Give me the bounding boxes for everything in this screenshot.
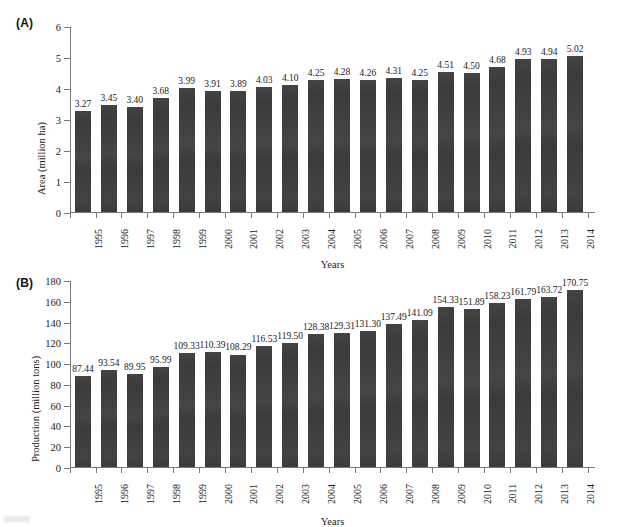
bar <box>256 346 272 467</box>
y-tick-mark <box>64 182 70 183</box>
x-tick-label: 2002 <box>274 484 285 504</box>
y-tick-label: 140 <box>45 317 61 328</box>
x-tick-label: 2012 <box>533 229 544 249</box>
bar <box>386 324 402 467</box>
x-tick-label: 1998 <box>171 229 182 249</box>
y-tick-mark <box>64 343 70 344</box>
x-tick-label: 1997 <box>145 229 156 249</box>
bar-value-label: 119.50 <box>273 331 307 341</box>
bar <box>75 376 91 467</box>
x-tick-label: 2012 <box>533 484 544 504</box>
y-tick-label: 60 <box>51 400 62 411</box>
bar <box>101 370 117 467</box>
x-tick-mark <box>484 468 485 473</box>
x-tick-label: 2014 <box>585 484 596 504</box>
panel-a-plot-area: 01234563.273.453.403.683.993.913.894.034… <box>70 27 595 213</box>
x-tick-label: 2005 <box>352 229 363 249</box>
x-tick-mark <box>303 468 304 473</box>
x-tick-mark <box>432 213 433 218</box>
y-tick-mark <box>64 406 70 407</box>
x-tick-mark <box>147 213 148 218</box>
bar-value-label: 95.99 <box>144 355 178 365</box>
bar <box>438 72 454 212</box>
bar <box>256 87 272 212</box>
y-tick-mark <box>64 89 70 90</box>
x-tick-mark <box>70 468 71 473</box>
bar-value-label: 5.02 <box>558 44 592 54</box>
x-tick-label: 2001 <box>248 484 259 504</box>
y-tick-label: 6 <box>56 22 61 33</box>
x-tick-label: 2013 <box>559 229 570 249</box>
x-tick-mark <box>355 468 356 473</box>
bar <box>101 105 117 212</box>
x-tick-mark <box>536 213 537 218</box>
x-tick-mark <box>355 213 356 218</box>
x-tick-label: 1997 <box>145 484 156 504</box>
scan-artifact <box>4 516 30 522</box>
x-tick-mark <box>277 213 278 218</box>
x-tick-label: 2008 <box>430 229 441 249</box>
bar <box>334 79 350 212</box>
bar <box>464 73 480 213</box>
bar <box>541 297 557 467</box>
panel-b-y-axis-line <box>70 281 71 468</box>
y-tick-label: 2 <box>56 146 61 157</box>
bar <box>515 59 531 212</box>
x-tick-label: 2000 <box>223 229 234 249</box>
x-tick-mark <box>329 213 330 218</box>
bar <box>464 309 480 467</box>
bar <box>412 320 428 467</box>
x-tick-label: 2007 <box>404 484 415 504</box>
x-tick-label: 2006 <box>378 484 389 504</box>
x-tick-mark <box>70 213 71 218</box>
bar <box>334 333 350 467</box>
x-tick-mark <box>96 213 97 218</box>
y-tick-label: 0 <box>56 463 61 474</box>
y-tick-mark <box>64 323 70 324</box>
x-tick-mark <box>588 213 589 218</box>
bar <box>282 343 298 467</box>
bar <box>308 80 324 212</box>
x-tick-mark <box>303 213 304 218</box>
x-tick-label: 2004 <box>326 484 337 504</box>
y-tick-label: 120 <box>45 338 61 349</box>
panel-b-x-axis-title: Years <box>70 516 595 527</box>
y-tick-mark <box>64 447 70 448</box>
x-tick-mark <box>536 468 537 473</box>
bar <box>179 353 195 467</box>
y-tick-mark <box>64 58 70 59</box>
panel-b-y-axis-title: Production (million tons) <box>30 356 41 462</box>
x-tick-mark <box>199 468 200 473</box>
x-tick-label: 2014 <box>585 229 596 249</box>
x-tick-mark <box>380 468 381 473</box>
bar <box>153 367 169 467</box>
x-tick-label: 2008 <box>430 484 441 504</box>
bar <box>567 56 583 212</box>
panel-a-x-axis-line <box>70 212 595 213</box>
y-tick-label: 180 <box>45 276 61 287</box>
x-tick-label: 1995 <box>93 484 104 504</box>
panel-a: (A) Area (million ha) 01234563.273.453.4… <box>0 0 619 268</box>
bar <box>308 334 324 467</box>
x-tick-mark <box>510 468 511 473</box>
x-tick-label: 2011 <box>507 229 518 249</box>
x-tick-mark <box>121 468 122 473</box>
x-tick-mark <box>121 213 122 218</box>
x-tick-mark <box>406 213 407 218</box>
y-tick-mark <box>64 385 70 386</box>
x-tick-mark <box>380 213 381 218</box>
x-tick-label: 1996 <box>119 484 130 504</box>
x-tick-label: 2000 <box>223 484 234 504</box>
bar-value-label: 108.29 <box>221 342 255 352</box>
x-tick-label: 2009 <box>456 229 467 249</box>
bar-value-label: 170.75 <box>558 278 592 288</box>
x-tick-mark <box>432 468 433 473</box>
y-tick-label: 40 <box>51 421 62 432</box>
x-tick-mark <box>458 468 459 473</box>
x-tick-mark <box>562 468 563 473</box>
x-tick-label: 2013 <box>559 484 570 504</box>
x-tick-label: 2009 <box>456 484 467 504</box>
x-tick-label: 2004 <box>326 229 337 249</box>
bar <box>567 290 583 467</box>
x-tick-mark <box>277 468 278 473</box>
